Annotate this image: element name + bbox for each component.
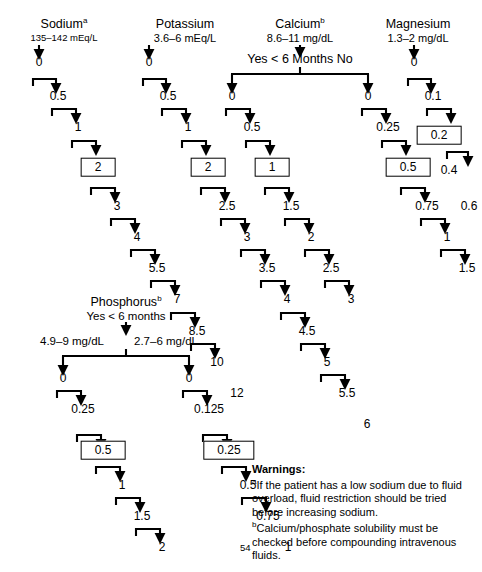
- node-phosphorus-no-0: 0: [186, 371, 193, 385]
- node-sodium-10: 12: [230, 386, 243, 400]
- column-range-sodium: 135–142 mEq/L: [4, 32, 124, 43]
- node-potassium-5: 3: [244, 230, 251, 244]
- diagram-canvas: Sodiuma 135–142 mEq/L Potassium 3.6–6 mE…: [0, 0, 482, 572]
- page-number: 54: [240, 542, 251, 553]
- node-calcium-yes-4: 2: [308, 230, 315, 244]
- node-potassium-1: 0.5: [160, 89, 177, 103]
- warning-item-a: aIf the patient has a low sodium due to …: [252, 477, 478, 520]
- column-title-sodium: Sodiuma: [4, 16, 124, 32]
- node-calcium-no-5: 1.5: [459, 261, 476, 275]
- phosphorus-sub-label: Yes < 6 months: [36, 310, 216, 324]
- node-potassium-8: 4.5: [299, 324, 316, 338]
- column-title-phosphorus: Phosphorusb: [36, 294, 216, 310]
- node-calcium-no-0: 0: [365, 89, 372, 103]
- node-phosphorus-yes-0: 0: [60, 371, 67, 385]
- node-calcium-no-1: 0.25: [376, 120, 399, 134]
- node-calcium-no-boxed: 0.5: [386, 158, 431, 177]
- node-sodium-4: 3: [114, 199, 121, 213]
- node-magnesium-3: 0.4: [441, 163, 458, 177]
- node-magnesium-4: 0.6: [461, 199, 478, 213]
- node-potassium-0: 0: [146, 55, 153, 69]
- node-phosphorus-no-1: 0.125: [194, 402, 224, 416]
- column-header-potassium: Potassium 3.6–6 mEq/L: [125, 16, 245, 45]
- column-title-potassium: Potassium: [125, 16, 245, 32]
- node-calcium-no-3: 0.75: [415, 199, 438, 213]
- node-phosphorus-yes-1: 0.25: [71, 402, 94, 416]
- node-phosphorus-yes-5: 2: [159, 540, 166, 554]
- node-potassium-2: 1: [185, 120, 192, 134]
- node-potassium-9: 5: [324, 355, 331, 369]
- node-calcium-yes-0: 0: [229, 89, 236, 103]
- node-potassium-6: 3.5: [259, 261, 276, 275]
- node-sodium-5: 4: [134, 230, 141, 244]
- node-calcium-yes-1: 0.5: [244, 120, 261, 134]
- node-potassium-11: 6: [364, 417, 371, 431]
- node-calcium-yes-boxed: 1: [255, 158, 290, 177]
- node-calcium-yes-3: 1.5: [283, 199, 300, 213]
- column-title-magnesium: Magnesium: [358, 16, 478, 32]
- node-potassium-7: 4: [284, 292, 291, 306]
- node-calcium-yes-6: 3: [348, 292, 355, 306]
- node-calcium-no-4: 1: [444, 230, 451, 244]
- phosphorus-range-left: 4.9–9 mg/dL: [40, 335, 104, 347]
- column-range-magnesium: 1.3–2 mg/dL: [358, 32, 478, 45]
- node-sodium-2: 1: [75, 120, 82, 134]
- node-sodium-7: 7: [174, 292, 181, 306]
- node-sodium-boxed: 2: [81, 158, 116, 177]
- node-magnesium-boxed: 0.2: [417, 126, 462, 145]
- node-phosphorus-yes-3: 1: [119, 478, 126, 492]
- node-potassium-boxed: 2: [191, 158, 226, 177]
- column-header-phosphorus: Phosphorusb Yes < 6 months: [36, 294, 216, 323]
- node-phosphorus-yes-4: 1.5: [134, 509, 151, 523]
- column-range-calcium: 8.6–11 mg/dL: [240, 32, 360, 45]
- column-header-sodium: Sodiuma 135–142 mEq/L: [4, 16, 124, 43]
- warnings-title: Warnings:: [252, 463, 478, 477]
- calcium-split-label: Yes < 6 Months No: [247, 52, 353, 66]
- node-phosphorus-yes-boxed: 0.5: [81, 441, 126, 460]
- node-sodium-8: 8.5: [189, 324, 206, 338]
- node-potassium-10: 5.5: [339, 386, 356, 400]
- column-title-calcium: Calciumb: [240, 16, 360, 32]
- column-range-potassium: 3.6–6 mEq/L: [125, 32, 245, 45]
- column-header-calcium: Calciumb 8.6–11 mg/dL: [240, 16, 360, 45]
- warnings-block: Warnings: aIf the patient has a low sodi…: [252, 463, 478, 563]
- node-sodium-6: 5.5: [149, 261, 166, 275]
- node-sodium-9: 10: [210, 355, 223, 369]
- node-magnesium-1: 0.1: [425, 89, 442, 103]
- node-calcium-yes-5: 2.5: [323, 261, 340, 275]
- node-sodium-0: 0: [36, 55, 43, 69]
- node-phosphorus-no-boxed: 0.25: [203, 441, 254, 460]
- node-magnesium-0: 0: [411, 55, 418, 69]
- node-potassium-4: 2.5: [219, 199, 236, 213]
- column-header-magnesium: Magnesium 1.3–2 mg/dL: [358, 16, 478, 45]
- node-sodium-1: 0.5: [50, 89, 67, 103]
- warning-item-b: bCalcium/phosphate solubility must be ch…: [252, 520, 478, 563]
